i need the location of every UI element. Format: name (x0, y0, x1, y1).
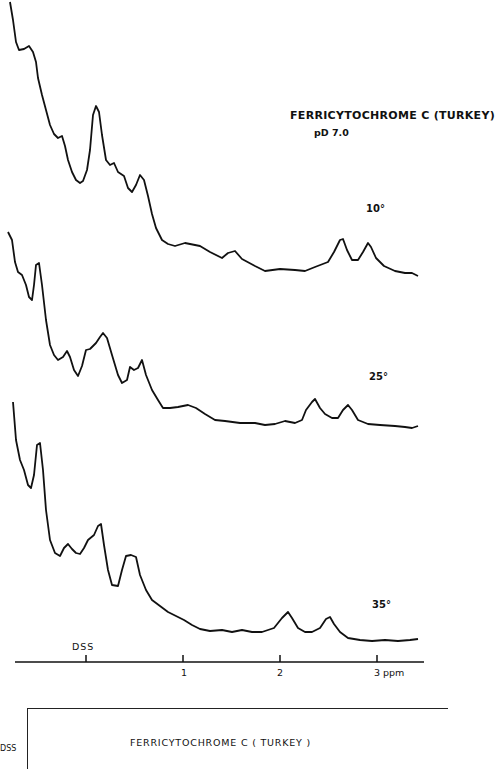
figure-title: FERRICYTOCHROME C (TURKEY) (290, 109, 495, 122)
tick-label-3ppm: 3 ppm (374, 667, 404, 678)
label-25-deg: 25° (369, 371, 388, 382)
dss-label: DSS (72, 641, 94, 652)
tick-label-2: 2 (277, 667, 283, 678)
tick-label-1: 1 (181, 667, 187, 678)
trace-35-deg (13, 402, 418, 641)
second-panel-left-label: DSS (0, 744, 16, 753)
trace-25-deg (8, 232, 418, 428)
figure-subtitle: pD 7.0 (314, 127, 349, 138)
label-10-deg: 10° (366, 203, 385, 214)
second-panel-title: FERRICYTOCHROME C ( TURKEY ) (130, 737, 311, 748)
trace-10-deg (10, 2, 418, 276)
label-35-deg: 35° (372, 599, 391, 610)
